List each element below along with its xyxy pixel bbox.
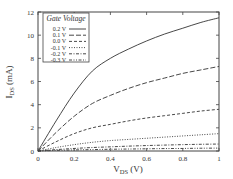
legend-label: 0.0 V	[53, 38, 67, 44]
legend: Gate Voltage 0.2 V0.1 V0.0 V-0.1 V-0.2 V…	[43, 13, 89, 63]
x-tick-label: 0.8	[178, 155, 187, 163]
x-axis-label: VDS (V)	[113, 164, 143, 175]
legend-title: Gate Voltage	[47, 14, 87, 23]
y-tick-label: 0	[31, 148, 35, 156]
y-tick-label: 2	[31, 124, 35, 132]
curve--02V	[38, 144, 219, 151]
iv-characteristics-chart: 02468101200.20.40.60.81 Gate Voltage 0.2…	[0, 0, 233, 179]
legend-label: -0.3 V	[51, 57, 67, 63]
legend-label: -0.1 V	[51, 45, 67, 51]
y-axis-label: IDS (mA)	[4, 65, 15, 98]
x-tick-label: 0.6	[142, 155, 151, 163]
curve-01V	[38, 66, 219, 151]
x-tick-label: 0.2	[70, 155, 79, 163]
x-tick-label: 1	[217, 155, 221, 163]
x-tick-label: 0	[36, 155, 40, 163]
y-tick-label: 6	[31, 78, 35, 86]
y-tick-label: 12	[27, 9, 35, 17]
y-tick-label: 10	[27, 32, 35, 40]
y-tick-label: 4	[31, 101, 35, 109]
legend-label: 0.1 V	[53, 32, 67, 38]
x-tick-label: 0.4	[106, 155, 115, 163]
legend-label: -0.2 V	[51, 51, 67, 57]
y-tick-label: 8	[31, 55, 35, 63]
legend-label: 0.2 V	[53, 26, 67, 32]
